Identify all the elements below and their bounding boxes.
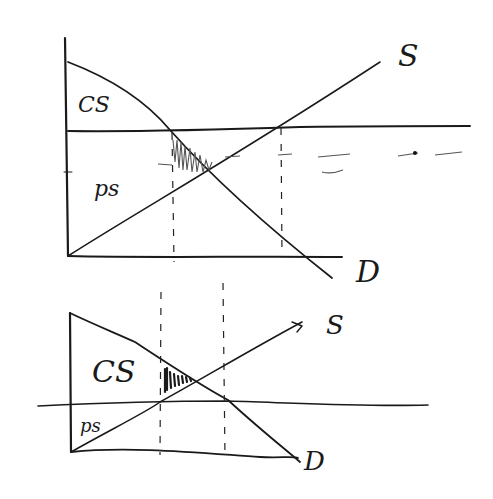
supply-demand-sketch: CS ps S D CS ps S D (0, 0, 493, 499)
bottom-supply-label: S (326, 310, 344, 340)
bottom-quantity-dash-1 (160, 292, 161, 455)
bottom-quantity-dash-2 (223, 283, 225, 458)
top-price-line (68, 126, 470, 131)
top-demand-label: D (355, 254, 380, 289)
bottom-demand-label: D (303, 446, 325, 476)
top-supply-label: S (398, 38, 419, 73)
bottom-graph: CS ps S D (38, 283, 428, 476)
top-ps-label: ps (94, 176, 119, 201)
top-y-axis (65, 38, 68, 256)
top-x-axis (68, 256, 342, 257)
top-cs-label: CS (78, 92, 110, 117)
bottom-x-axis (71, 450, 298, 458)
bottom-y-axis (70, 313, 71, 452)
bottom-ps-label: ps (80, 415, 101, 436)
bottom-deadweight-loss-hatch (165, 368, 191, 392)
top-supply-curve (68, 62, 380, 256)
top-graph: CS ps S D (64, 38, 470, 289)
bottom-cs-label: CS (92, 354, 136, 389)
